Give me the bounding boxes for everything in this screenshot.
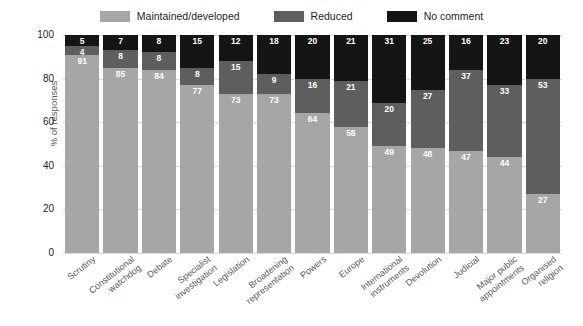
bar-value-label: 47 — [461, 151, 470, 162]
legend-item-label: Maintained/developed — [137, 11, 240, 22]
bar-segment[interactable]: 16 — [449, 35, 483, 70]
legend-swatch-icon — [100, 11, 130, 22]
bar-segment[interactable]: 5 — [65, 35, 99, 46]
plot-area: 9145858784887781573151273918641620582121… — [63, 35, 562, 253]
bar-value-label: 84 — [154, 70, 163, 81]
bar-value-label: 20 — [538, 35, 547, 46]
bar-value-label: 8 — [195, 68, 200, 79]
legend-item[interactable]: Maintained/developed — [100, 11, 240, 22]
bar-value-label: 20 — [385, 103, 394, 114]
bar-value-label: 8 — [157, 35, 162, 46]
bar-segment[interactable]: 21 — [334, 35, 368, 81]
bar-segment[interactable]: 73 — [257, 94, 291, 253]
bar-segment[interactable]: 33 — [487, 85, 521, 157]
bar-column[interactable]: 492031 — [372, 35, 406, 253]
bar-segment[interactable]: 8 — [142, 35, 176, 52]
bar-segment[interactable]: 84 — [142, 70, 176, 253]
bar-segment[interactable]: 27 — [411, 90, 445, 149]
bar-segment[interactable]: 37 — [449, 70, 483, 151]
bar-column[interactable]: 731512 — [219, 35, 253, 253]
bar-value-label: 9 — [272, 74, 277, 85]
bar-segment[interactable]: 12 — [219, 35, 253, 61]
bar-segment[interactable]: 64 — [295, 113, 329, 253]
bar-column[interactable]: 582121 — [334, 35, 368, 253]
bar-segment[interactable]: 8 — [180, 68, 214, 85]
bar-segment[interactable]: 7 — [103, 35, 137, 50]
bar-segment[interactable]: 4 — [65, 46, 99, 55]
bar-segment[interactable]: 8 — [142, 52, 176, 69]
bar-segment[interactable]: 48 — [411, 148, 445, 253]
y-axis-tick-label: 0 — [26, 248, 54, 258]
y-axis-tick-label: 100 — [26, 30, 54, 40]
legend-item-label: No comment — [424, 11, 484, 22]
bar-segment[interactable]: 9 — [257, 74, 291, 94]
y-axis-tick-label: 20 — [26, 204, 54, 214]
bar-segment[interactable]: 23 — [487, 35, 521, 85]
bar-value-label: 37 — [461, 70, 470, 81]
bar-segment[interactable]: 15 — [180, 35, 214, 68]
bar-column[interactable]: 8587 — [103, 35, 137, 253]
bar-segment[interactable]: 49 — [372, 146, 406, 253]
bar-value-label: 5 — [80, 35, 85, 46]
bar-value-label: 21 — [346, 81, 355, 92]
bar-value-label: 16 — [308, 79, 317, 90]
bar-value-label: 21 — [346, 35, 355, 46]
bar-value-label: 64 — [308, 113, 317, 124]
bar-segment[interactable]: 15 — [219, 61, 253, 94]
bar-value-label: 44 — [500, 157, 509, 168]
stacked-bar-chart: Maintained/developedReducedNo comment 91… — [0, 0, 583, 326]
bar-segment[interactable]: 44 — [487, 157, 521, 253]
bar-segment[interactable]: 47 — [449, 151, 483, 253]
bar-value-label: 25 — [423, 35, 432, 46]
chart-legend: Maintained/developedReducedNo comment — [0, 8, 583, 24]
bar-column[interactable]: 8488 — [142, 35, 176, 253]
y-axis-title: % of responses — [48, 54, 59, 174]
legend-swatch-icon — [387, 11, 417, 22]
y-axis-tick-label: 80 — [26, 74, 54, 84]
bar-column[interactable]: 77815 — [180, 35, 214, 253]
bar-segment[interactable]: 18 — [257, 35, 291, 74]
bar-value-label: 16 — [461, 35, 470, 46]
legend-item-label: Reduced — [311, 11, 353, 22]
bar-column[interactable]: 473716 — [449, 35, 483, 253]
bar-value-label: 12 — [231, 35, 240, 46]
bar-segment[interactable]: 77 — [180, 85, 214, 253]
bar-segment[interactable]: 20 — [526, 35, 560, 79]
bar-segment[interactable]: 25 — [411, 35, 445, 90]
bar-value-label: 49 — [385, 146, 394, 157]
bar-segment[interactable]: 85 — [103, 68, 137, 253]
bar-value-label: 53 — [538, 79, 547, 90]
bar-column[interactable]: 73918 — [257, 35, 291, 253]
bar-value-label: 31 — [385, 35, 394, 46]
bar-column[interactable]: 482725 — [411, 35, 445, 253]
bar-value-label: 33 — [500, 85, 509, 96]
bar-column[interactable]: 9145 — [65, 35, 99, 253]
bar-segment[interactable]: 20 — [372, 103, 406, 147]
legend-item[interactable]: Reduced — [274, 11, 353, 22]
bar-segment[interactable]: 8 — [103, 50, 137, 67]
bar-value-label: 91 — [77, 55, 86, 66]
bar-value-label: 8 — [118, 50, 123, 61]
bar-column[interactable]: 641620 — [295, 35, 329, 253]
bar-segment[interactable]: 58 — [334, 127, 368, 253]
legend-item[interactable]: No comment — [387, 11, 484, 22]
bar-column[interactable]: 443323 — [487, 35, 521, 253]
bar-value-label: 58 — [346, 127, 355, 138]
bar-value-label: 27 — [423, 90, 432, 101]
bar-segment[interactable]: 27 — [526, 194, 560, 253]
bar-segment[interactable]: 21 — [334, 81, 368, 127]
bar-segment[interactable]: 53 — [526, 79, 560, 195]
bar-value-label: 27 — [538, 194, 547, 205]
y-axis-tick-label: 40 — [26, 161, 54, 171]
bar-value-label: 18 — [269, 35, 278, 46]
bar-segment[interactable]: 31 — [372, 35, 406, 103]
bar-segment[interactable]: 20 — [295, 35, 329, 79]
legend-swatch-icon — [274, 11, 304, 22]
y-axis-tick-label: 60 — [26, 117, 54, 127]
x-axis-labels: ScrutinyConstitutional watchdogDebateSpe… — [63, 254, 562, 326]
bar-segment[interactable]: 91 — [65, 55, 99, 253]
bar-segment[interactable]: 73 — [219, 94, 253, 253]
bar-value-label: 77 — [193, 85, 202, 96]
bar-segment[interactable]: 16 — [295, 79, 329, 114]
bar-column[interactable]: 275320 — [526, 35, 560, 253]
